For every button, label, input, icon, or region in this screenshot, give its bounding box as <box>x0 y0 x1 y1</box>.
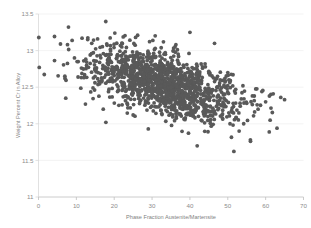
data-point <box>170 89 174 93</box>
data-point <box>108 95 112 99</box>
data-point <box>199 82 203 86</box>
data-point <box>227 92 231 96</box>
data-point <box>147 75 151 79</box>
data-point <box>115 41 119 45</box>
data-point <box>179 114 183 118</box>
data-point <box>129 82 133 86</box>
data-point <box>228 114 232 118</box>
data-point <box>138 85 142 89</box>
data-point <box>84 102 88 106</box>
data-point <box>125 46 129 50</box>
data-point <box>214 112 218 116</box>
data-point <box>234 115 238 119</box>
data-point <box>104 81 108 85</box>
data-point <box>112 74 116 78</box>
data-point <box>91 86 95 90</box>
x-tick-label: 60 <box>262 202 269 209</box>
data-point <box>87 65 91 69</box>
data-point <box>171 115 175 119</box>
data-point <box>133 97 137 101</box>
data-point <box>207 89 211 93</box>
data-point <box>203 103 207 107</box>
data-point <box>173 79 177 83</box>
data-point <box>185 86 189 90</box>
data-point <box>153 86 157 90</box>
data-point <box>104 20 108 24</box>
data-point <box>218 70 222 74</box>
data-point <box>146 96 150 100</box>
data-point <box>166 71 170 75</box>
data-point <box>53 35 57 39</box>
data-point <box>212 98 216 102</box>
data-point <box>160 113 164 117</box>
data-point <box>223 92 227 96</box>
data-point <box>242 122 246 126</box>
data-point <box>153 34 157 38</box>
data-point <box>135 50 139 54</box>
data-point <box>187 106 191 110</box>
data-point <box>222 102 226 106</box>
y-tick-label: 12.5 <box>21 83 34 90</box>
data-point <box>184 112 188 116</box>
data-point <box>198 70 202 74</box>
data-point <box>90 52 94 56</box>
data-point <box>37 36 41 40</box>
data-point <box>109 47 113 51</box>
data-point <box>97 79 101 83</box>
data-point <box>66 43 70 47</box>
data-point <box>174 83 178 87</box>
data-point <box>138 94 142 98</box>
data-point <box>150 104 154 108</box>
data-point <box>123 59 127 63</box>
data-point <box>218 78 222 82</box>
data-point <box>64 96 68 100</box>
data-point <box>271 92 275 96</box>
data-point <box>239 97 243 101</box>
data-point <box>177 55 181 59</box>
data-point <box>84 57 88 61</box>
data-point <box>128 38 132 42</box>
data-point <box>97 94 101 98</box>
data-point <box>196 106 200 110</box>
data-point <box>152 93 156 97</box>
data-point <box>63 77 67 81</box>
data-point <box>116 53 120 57</box>
data-point <box>184 94 188 98</box>
data-point <box>213 41 217 45</box>
data-point <box>73 56 77 60</box>
data-point <box>155 94 159 98</box>
data-point <box>173 69 177 73</box>
data-point <box>126 95 130 99</box>
data-point <box>138 52 142 56</box>
data-point <box>92 38 96 42</box>
data-point <box>200 100 204 104</box>
data-point <box>173 73 177 77</box>
data-point <box>159 66 163 70</box>
data-point <box>199 62 203 66</box>
data-point <box>115 65 119 69</box>
data-point <box>151 82 155 86</box>
data-point <box>67 48 71 52</box>
data-point <box>189 113 193 117</box>
plot-svg: 1111.51212.51313.5 010203040506070 Phase… <box>0 0 311 228</box>
data-point <box>142 75 146 79</box>
data-point <box>152 101 156 105</box>
data-point <box>206 130 210 134</box>
data-point <box>173 106 177 110</box>
data-point <box>155 66 159 70</box>
data-point <box>249 139 253 143</box>
data-point <box>197 114 201 118</box>
data-point <box>202 114 206 118</box>
data-point <box>124 99 128 103</box>
data-point <box>177 62 181 66</box>
data-point <box>232 150 236 154</box>
data-point <box>79 86 83 90</box>
data-point <box>176 102 180 106</box>
data-point <box>226 101 230 105</box>
data-point <box>126 103 130 107</box>
data-point <box>231 123 235 127</box>
data-point <box>145 55 149 59</box>
data-point <box>151 109 155 113</box>
data-point <box>133 87 137 91</box>
data-point <box>154 72 158 76</box>
